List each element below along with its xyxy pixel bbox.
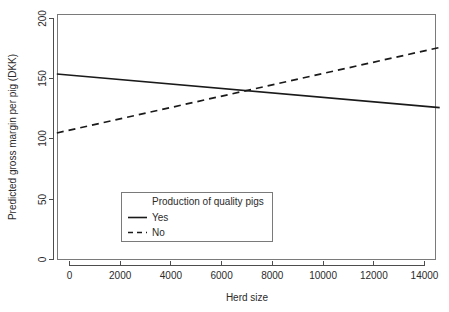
y-axis: 200 150 100 50 0 bbox=[37, 10, 54, 263]
line-chart: 200 150 100 50 0 Predicted gross margin … bbox=[0, 0, 449, 312]
x-tick-label-14000: 14000 bbox=[411, 270, 439, 281]
x-tick-label-8000: 8000 bbox=[261, 270, 284, 281]
series-line-no bbox=[57, 47, 440, 133]
y-tick-label-200: 200 bbox=[37, 10, 48, 27]
x-axis: 0 2000 4000 6000 8000 10000 12000 14000 bbox=[67, 261, 439, 282]
legend-label-no: No bbox=[152, 227, 165, 238]
x-tick-label-2000: 2000 bbox=[109, 270, 132, 281]
y-axis-title: Predicted gross margin per pig (DKK) bbox=[7, 54, 18, 220]
legend: Production of quality pigs Yes No bbox=[122, 193, 273, 242]
y-tick-label-0: 0 bbox=[37, 256, 48, 262]
legend-title: Production of quality pigs bbox=[152, 196, 264, 207]
data-series-group bbox=[57, 47, 440, 133]
x-tick-label-4000: 4000 bbox=[160, 270, 183, 281]
y-tick-label-100: 100 bbox=[37, 130, 48, 147]
x-axis-title: Herd size bbox=[226, 292, 269, 303]
x-tick-label-10000: 10000 bbox=[309, 270, 337, 281]
chart-screenshot: 200 150 100 50 0 Predicted gross margin … bbox=[0, 0, 449, 312]
legend-label-yes: Yes bbox=[152, 212, 168, 223]
y-tick-label-50: 50 bbox=[37, 194, 48, 206]
x-tick-label-6000: 6000 bbox=[210, 270, 233, 281]
x-tick-label-0: 0 bbox=[67, 270, 73, 281]
x-tick-label-12000: 12000 bbox=[360, 270, 388, 281]
y-tick-label-150: 150 bbox=[37, 70, 48, 87]
